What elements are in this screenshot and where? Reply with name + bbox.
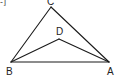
geometry-figure: -] C D B A — [0, 0, 115, 79]
corner-fragment: -] — [0, 0, 6, 7]
triangle-diagram: -] C D B A — [0, 0, 115, 79]
segment-bc — [11, 7, 51, 62]
vertex-label-c: C — [47, 0, 54, 7]
point-label-d: D — [56, 26, 63, 37]
vertex-label-a: A — [107, 66, 114, 77]
segment-bd — [11, 39, 59, 62]
vertex-label-b: B — [6, 66, 13, 77]
segment-da — [59, 39, 109, 62]
